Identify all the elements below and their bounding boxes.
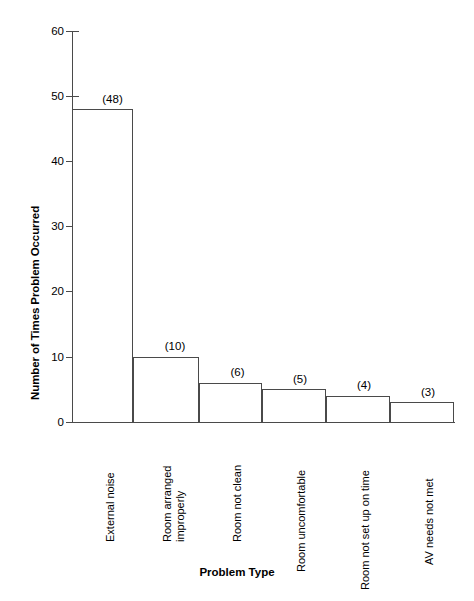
bar-room-arranged-improperly (133, 357, 199, 423)
x-category-label-av-needs-not-met: AV needs not met (423, 478, 436, 565)
bar-chart: Number of Times Problem Occurred 0 10 20… (0, 0, 474, 601)
bar-value-label: (5) (268, 372, 332, 386)
bar-value-label: (6) (206, 365, 269, 379)
y-tick-label: 50 (51, 88, 64, 104)
cat-line-2: improperly (174, 466, 187, 542)
x-category-label-room-not-clean: Room not clean (231, 465, 244, 542)
cat-line-1: Room not clean (231, 465, 243, 542)
bar-external-noise (72, 109, 133, 423)
y-tick-label: 40 (51, 153, 64, 169)
bar-value-label: (4) (332, 378, 396, 392)
cat-line-1: External noise (104, 472, 116, 542)
y-tick-label: 60 (51, 23, 64, 39)
y-tick-label: 20 (51, 283, 64, 299)
x-category-label-external-noise: External noise (104, 472, 117, 542)
cat-line-1: Room arranged (161, 466, 173, 542)
x-category-label-room-uncomfortable: Room uncomfortable (295, 470, 308, 572)
cat-line-1: Room uncomfortable (295, 470, 307, 572)
y-axis-title: Number of Times Problem Occurred (26, 0, 44, 400)
bar-av-needs-not-met (390, 402, 454, 423)
cat-line-1: AV needs not met (423, 478, 435, 565)
bar-value-label: (10) (142, 339, 208, 353)
bar-room-uncomfortable (262, 389, 326, 423)
bar-value-label: (3) (396, 385, 460, 399)
y-tick-mark (66, 31, 79, 32)
bar-room-not-set-up-on-time (326, 396, 390, 423)
y-tick-mark (66, 96, 79, 97)
x-category-label-room-arranged-improperly: Room arranged improperly (161, 466, 187, 542)
bar-value-label: (48) (82, 92, 143, 106)
y-tick-label: 30 (51, 218, 64, 234)
y-tick-label: 0 (58, 414, 64, 430)
plot-area: 0 10 20 30 40 50 60 (72, 31, 455, 423)
y-tick-label: 10 (51, 349, 64, 365)
bar-room-not-clean (199, 383, 262, 423)
x-axis-title: Problem Type (0, 566, 474, 578)
